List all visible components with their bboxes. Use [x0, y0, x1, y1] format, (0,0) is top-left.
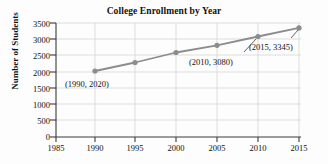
y-axis-ticks: [50, 23, 56, 137]
x-tick-label: 1990: [78, 143, 112, 153]
data-point-marker[interactable]: [255, 34, 260, 39]
data-point-marker[interactable]: [214, 43, 219, 48]
x-tick-label: 1985: [39, 143, 73, 153]
x-tick-label: 1995: [118, 143, 152, 153]
x-tick-label: 2010: [241, 143, 275, 153]
data-point-marker[interactable]: [132, 60, 137, 65]
x-tick-label: 2005: [200, 143, 234, 153]
plot-canvas: [0, 0, 328, 164]
data-point-marker[interactable]: [173, 50, 178, 55]
data-annotation-2010: (2010, 3080): [189, 57, 233, 67]
x-tick-label: 2000: [159, 143, 193, 153]
data-point-marker[interactable]: [92, 68, 97, 73]
x-tick-label: 2015: [282, 143, 316, 153]
data-annotation-2015: (2015, 3345): [249, 42, 293, 52]
data-annotation-1990: (1990, 2020): [65, 79, 109, 89]
chart-figure: College Enrollment by Year Number of Stu…: [0, 0, 328, 164]
data-point-marker[interactable]: [296, 25, 301, 30]
x-axis-ticks: [56, 137, 299, 142]
